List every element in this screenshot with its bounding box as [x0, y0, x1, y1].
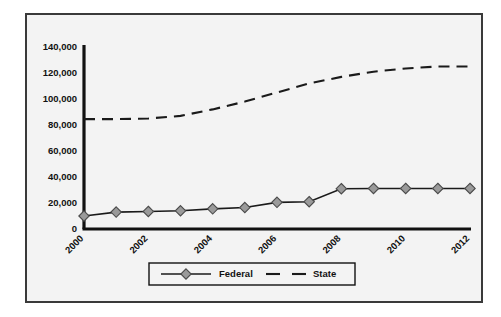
legend-label-state: State: [313, 268, 336, 279]
series-federal: [79, 183, 475, 221]
federal-data-point: [336, 184, 346, 194]
x-tick-label: 2006: [256, 233, 279, 256]
federal-data-point: [433, 183, 443, 193]
federal-data-point: [465, 183, 475, 193]
chart-legend: FederalState: [149, 263, 355, 285]
y-tick-label: 100,000: [43, 93, 77, 104]
federal-data-point: [175, 206, 185, 216]
federal-data-point: [368, 183, 378, 193]
federal-data-point: [111, 207, 121, 217]
chart-figure: 020,00040,00060,00080,000100,000120,0001…: [25, 13, 483, 303]
y-tick-label: 140,000: [43, 41, 77, 52]
federal-data-point: [79, 211, 89, 221]
federal-data-point: [207, 204, 217, 214]
line-chart: 020,00040,00060,00080,000100,000120,0001…: [27, 15, 481, 301]
federal-data-point: [272, 197, 282, 207]
y-tick-label: 20,000: [48, 197, 77, 208]
federal-data-point: [400, 183, 410, 193]
x-tick-label: 2004: [191, 232, 214, 255]
x-tick-label: 2010: [384, 233, 407, 256]
legend-label-federal: Federal: [219, 268, 253, 279]
federal-data-point: [304, 197, 314, 207]
series-state: [84, 67, 470, 120]
y-axis-tick-labels: 020,00040,00060,00080,000100,000120,0001…: [43, 41, 77, 234]
x-tick-label: 2012: [449, 233, 472, 256]
y-tick-label: 120,000: [43, 67, 77, 78]
y-tick-label: 60,000: [48, 145, 77, 156]
x-axis-tick-labels: 2000200220042006200820102012: [63, 232, 472, 255]
y-tick-label: 40,000: [48, 171, 77, 182]
x-tick-label: 2000: [63, 233, 86, 256]
state-line: [84, 67, 470, 120]
federal-data-point: [240, 202, 250, 212]
x-tick-label: 2008: [320, 233, 343, 256]
federal-data-point: [143, 206, 153, 216]
x-tick-label: 2002: [127, 233, 150, 256]
y-tick-label: 80,000: [48, 119, 77, 130]
